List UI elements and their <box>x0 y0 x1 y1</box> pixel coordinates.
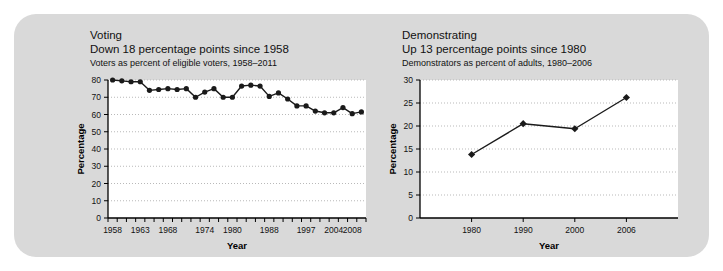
y-tick-label: 0 <box>408 213 413 223</box>
x-tick-label: 2000 <box>565 225 584 235</box>
data-point <box>276 90 281 95</box>
y-tick-label: 20 <box>92 179 102 189</box>
data-point <box>202 89 207 94</box>
y-tick-label: 15 <box>404 144 414 154</box>
y-tick-label: 50 <box>92 127 102 137</box>
data-point <box>128 79 133 84</box>
data-point <box>147 88 152 93</box>
demonstrating-svg: 0510152025301980199020002006YearPercenta… <box>386 72 686 252</box>
data-point <box>304 103 309 108</box>
y-tick-label: 10 <box>404 167 414 177</box>
data-point <box>230 95 235 100</box>
x-tick-label: 1980 <box>223 225 242 235</box>
y-axis-title: Percentage <box>75 123 86 174</box>
y-axis-title: Percentage <box>387 123 398 174</box>
x-axis-title: Year <box>227 240 247 251</box>
voting-figure: Voting Down 18 percentage points since 1… <box>74 14 374 257</box>
voting-plot: 0102030405060708019581963196819741980198… <box>74 72 374 252</box>
data-point <box>313 108 318 113</box>
x-tick-label: 1990 <box>514 225 533 235</box>
y-tick-label: 10 <box>92 196 102 206</box>
y-tick-label: 30 <box>92 161 102 171</box>
demonstrating-caption: Demonstrators as percent of adults, 1980… <box>402 57 592 70</box>
data-point <box>350 111 355 116</box>
data-point <box>257 83 262 88</box>
data-point <box>193 95 198 100</box>
x-tick-label: 1968 <box>158 225 177 235</box>
voting-svg: 0102030405060708019581963196819741980198… <box>74 72 374 252</box>
data-point <box>267 94 272 99</box>
data-point <box>211 86 216 91</box>
x-tick-label: 2006 <box>617 225 636 235</box>
data-point <box>119 78 124 83</box>
x-axis-title: Year <box>539 240 559 251</box>
y-tick-label: 20 <box>404 121 414 131</box>
y-tick-label: 40 <box>92 144 102 154</box>
voting-title-block: Voting Down 18 percentage points since 1… <box>90 28 289 70</box>
x-tick-label: 1997 <box>297 225 316 235</box>
x-tick-label: 1988 <box>260 225 279 235</box>
voting-title: Voting <box>90 28 289 42</box>
data-point <box>156 87 161 92</box>
data-point <box>221 95 226 100</box>
data-point <box>184 86 189 91</box>
x-tick-label: 1963 <box>131 225 150 235</box>
data-point <box>340 105 345 110</box>
chart-panel: Voting Down 18 percentage points since 1… <box>14 14 709 257</box>
y-tick-label: 70 <box>92 92 102 102</box>
y-tick-label: 0 <box>96 213 101 223</box>
x-tick-label: 1974 <box>195 225 214 235</box>
data-point <box>322 110 327 115</box>
y-tick-label: 25 <box>404 98 414 108</box>
x-tick-label: 2008 <box>343 225 362 235</box>
data-point <box>285 96 290 101</box>
y-tick-label: 60 <box>92 110 102 120</box>
demonstrating-plot: 0510152025301980199020002006YearPercenta… <box>386 72 686 252</box>
demonstrating-title: Demonstrating <box>402 28 592 42</box>
data-point <box>248 83 253 88</box>
y-tick-label: 5 <box>408 190 413 200</box>
data-point <box>294 103 299 108</box>
data-point <box>175 87 180 92</box>
data-point <box>359 109 364 114</box>
data-point <box>165 86 170 91</box>
data-point <box>331 110 336 115</box>
data-point <box>138 79 143 84</box>
data-point <box>110 77 115 82</box>
x-tick-label: 1980 <box>462 225 481 235</box>
x-tick-label: 1958 <box>103 225 122 235</box>
demonstrating-title-block: Demonstrating Up 13 percentage points si… <box>402 28 592 70</box>
demonstrating-subtitle: Up 13 percentage points since 1980 <box>402 42 592 57</box>
y-tick-label: 80 <box>92 75 102 85</box>
voting-subtitle: Down 18 percentage points since 1958 <box>90 42 289 57</box>
x-tick-label: 2004 <box>324 225 343 235</box>
demonstrating-figure: Demonstrating Up 13 percentage points si… <box>386 14 686 257</box>
y-tick-label: 30 <box>404 75 414 85</box>
voting-caption: Voters as percent of eligible voters, 19… <box>90 57 289 70</box>
data-point <box>239 83 244 88</box>
